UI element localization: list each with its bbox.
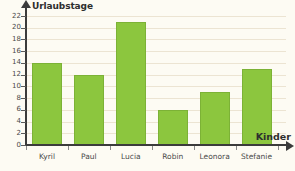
x-axis-tick-label: Leonora [194,152,236,161]
y-axis-tick [21,39,26,40]
y-axis-tick-label: 10 [3,83,21,90]
y-axis-tick [21,98,26,99]
bar [158,110,188,145]
x-axis-title: Kinder [256,131,291,142]
x-axis-tick-label: Stefanie [236,152,278,161]
y-axis-tick [21,51,26,52]
y-axis-tick-label: 12 [3,71,21,78]
bar-slot [194,10,236,145]
plot-area [26,10,288,145]
y-axis-tick-label: 2 [3,130,21,137]
x-axis-tick [26,146,27,150]
y-axis-tick-label: 18 [3,36,21,43]
bar-slot [236,10,278,145]
x-axis-line [25,144,287,146]
x-axis-tick-label: Paul [68,152,110,161]
y-axis-title: Urlaubstage [32,1,93,11]
y-axis-tick-label: 16 [3,48,21,55]
x-axis-tick-label: Kyril [26,152,68,161]
bar-slot [152,10,194,145]
bar [116,22,146,145]
y-axis-tick [21,86,26,87]
x-axis-tick [278,146,279,150]
bars-layer [26,10,288,145]
x-axis-tick-label: Robin [152,152,194,161]
bar-slot [26,10,68,145]
bar-slot [110,10,152,145]
y-axis-tick-label: 0 [3,142,21,149]
bar [32,63,62,145]
y-axis-tick-labels: 0246810121416182022 [0,0,21,171]
y-axis-tick [21,133,26,134]
x-axis-tick [236,146,237,150]
y-axis-tick [21,28,26,29]
bar [200,92,230,145]
x-axis-tick [194,146,195,150]
y-axis-tick [21,63,26,64]
y-axis-tick-label: 20 [3,24,21,31]
y-axis-tick [21,75,26,76]
y-axis-tick-label: 8 [3,95,21,102]
bar [74,75,104,145]
y-axis-tick [21,122,26,123]
y-axis-tick-label: 22 [3,13,21,20]
y-axis-tick-label: 14 [3,59,21,66]
x-axis-tick [152,146,153,150]
y-axis-tick [21,16,26,17]
y-axis-tick-label: 4 [3,118,21,125]
bar-slot [68,10,110,145]
x-axis-tick-label: Lucia [110,152,152,161]
x-axis-tick [68,146,69,150]
x-axis-arrow-icon [286,141,294,151]
y-axis-tick [21,110,26,111]
y-axis-tick-label: 6 [3,106,21,113]
x-axis-tick [110,146,111,150]
bar-chart: 0246810121416182022 KyrilPaulLuciaRobinL… [0,0,295,171]
